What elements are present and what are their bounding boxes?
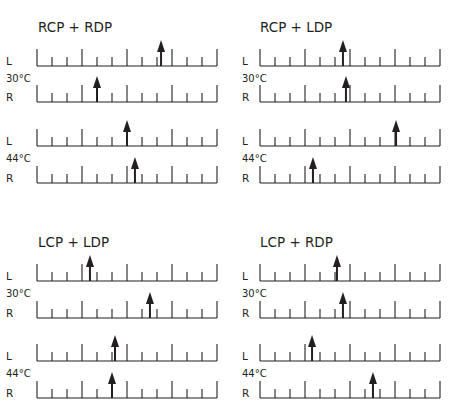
- left-label: L: [6, 350, 12, 362]
- temperature-label: 30°C: [242, 288, 267, 299]
- scale-left: [260, 335, 440, 361]
- up-arrow-icon: [108, 372, 116, 398]
- scale-left: [260, 120, 440, 146]
- temperature-group: LR44°C: [6, 120, 217, 184]
- right-label: R: [242, 91, 249, 103]
- up-arrow-icon: [369, 372, 377, 398]
- up-arrow-icon: [308, 335, 316, 361]
- temperature-label: 30°C: [6, 288, 31, 299]
- temperature-group: LR30°C: [242, 40, 440, 103]
- right-label: R: [6, 172, 13, 184]
- temperature-group: LR30°C: [6, 40, 217, 103]
- temperature-group: LR30°C: [6, 255, 217, 319]
- up-arrow-icon: [392, 120, 400, 146]
- scale-left: [260, 255, 440, 281]
- left-label: L: [242, 270, 248, 282]
- scale-right: [260, 76, 440, 102]
- temperature-group: LR44°C: [242, 120, 440, 184]
- scale-right: [37, 292, 217, 318]
- up-arrow-icon: [339, 292, 347, 318]
- temperature-label: 30°C: [242, 73, 267, 84]
- up-arrow-icon: [86, 255, 94, 281]
- up-arrow-icon: [146, 292, 154, 318]
- up-arrow-icon: [123, 120, 131, 146]
- temperature-label: 44°C: [242, 153, 267, 164]
- scale-right: [260, 292, 440, 318]
- right-label: R: [242, 307, 249, 319]
- scale-right: [37, 76, 217, 102]
- scale-diagram: RCP + RDPLR30°CLR44°CRCP + LDPLR30°CLR44…: [0, 0, 463, 418]
- left-label: L: [6, 270, 12, 282]
- temperature-label: 44°C: [6, 368, 31, 379]
- scale-right: [260, 157, 440, 183]
- up-arrow-icon: [339, 40, 347, 66]
- temperature-label: 44°C: [242, 368, 267, 379]
- temperature-label: 44°C: [6, 153, 31, 164]
- right-label: R: [242, 387, 249, 399]
- panel-rcp-ldp: RCP + LDPLR30°CLR44°C: [242, 19, 440, 184]
- panel-title: RCP + LDP: [260, 19, 332, 35]
- scale-right: [37, 372, 217, 398]
- up-arrow-icon: [342, 76, 350, 102]
- scale-left: [37, 255, 217, 281]
- right-label: R: [6, 307, 13, 319]
- temperature-group: LR30°C: [242, 255, 440, 319]
- panel-title: LCP + LDP: [38, 234, 109, 250]
- panel-title: LCP + RDP: [260, 234, 333, 250]
- up-arrow-icon: [333, 255, 341, 281]
- right-label: R: [242, 172, 249, 184]
- up-arrow-icon: [93, 76, 101, 102]
- left-label: L: [242, 135, 248, 147]
- left-label: L: [6, 135, 12, 147]
- scale-right: [260, 372, 440, 398]
- temperature-group: LR44°C: [242, 335, 440, 399]
- panel-lcp-ldp: LCP + LDPLR30°CLR44°C: [6, 234, 217, 399]
- right-label: R: [6, 91, 13, 103]
- panel-rcp-rdp: RCP + RDPLR30°CLR44°C: [6, 19, 217, 184]
- right-label: R: [6, 387, 13, 399]
- scale-left: [260, 40, 440, 66]
- up-arrow-icon: [309, 157, 317, 183]
- left-label: L: [6, 55, 12, 67]
- scale-left: [37, 335, 217, 361]
- scale-left: [37, 40, 217, 66]
- up-arrow-icon: [131, 157, 139, 183]
- scale-left: [37, 120, 217, 146]
- panel-lcp-rdp: LCP + RDPLR30°CLR44°C: [242, 234, 440, 399]
- temperature-group: LR44°C: [6, 335, 217, 399]
- up-arrow-icon: [157, 40, 165, 66]
- scale-right: [37, 157, 217, 183]
- left-label: L: [242, 350, 248, 362]
- temperature-label: 30°C: [6, 73, 31, 84]
- panel-title: RCP + RDP: [38, 19, 112, 35]
- left-label: L: [242, 55, 248, 67]
